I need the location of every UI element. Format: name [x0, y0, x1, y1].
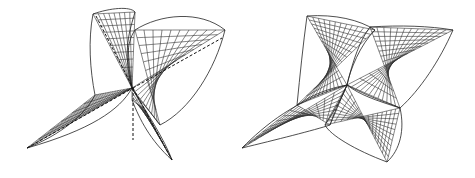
left-lobe-right-line	[132, 30, 225, 88]
left-lobe-tail-line	[132, 96, 154, 127]
left-lobe-right-line	[138, 30, 207, 95]
left-lobe-right-line	[153, 30, 154, 118]
right-lobe-left-line	[283, 115, 334, 116]
right-lobe-left-line	[263, 100, 341, 132]
left-surface-figure	[0, 0, 240, 178]
right-lobe-top-line	[330, 21, 331, 92]
left-surface-mesh	[27, 12, 225, 160]
right-lobe-left-line	[242, 85, 347, 148]
right-lobe-right-line	[360, 29, 432, 91]
left-lobe-bottom-line	[38, 88, 132, 139]
right-lobe-right-line	[369, 29, 418, 95]
right-surface-figure	[235, 0, 475, 178]
right-surface-outline	[242, 16, 453, 162]
right-lobe-bottom-line	[338, 101, 392, 140]
left-lobe-right-line	[149, 30, 171, 110]
right-lobe-top-line	[314, 25, 353, 98]
left-lobe-right-line	[143, 30, 189, 103]
left-lobe-top-line	[132, 12, 135, 88]
right-lobe-right-line	[374, 29, 412, 97]
right-lobe-right-line	[365, 29, 426, 93]
left-lobe-bottom-line	[61, 88, 132, 122]
